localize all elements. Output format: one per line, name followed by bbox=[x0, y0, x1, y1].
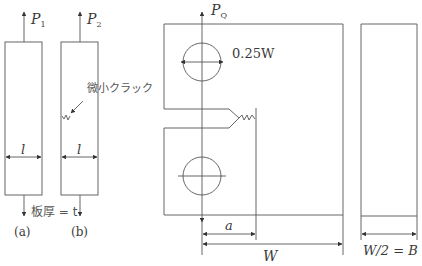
width-label-w: W bbox=[263, 249, 277, 263]
load-label-pq: PQ bbox=[211, 3, 227, 20]
diagram-canvas bbox=[0, 0, 422, 266]
side-view bbox=[361, 24, 417, 240]
side-thickness-label: W/2 = B bbox=[363, 244, 418, 257]
width-label-b: l bbox=[77, 143, 81, 156]
caption-b: (b) bbox=[71, 226, 88, 238]
load-label-p1: P1 bbox=[31, 12, 46, 29]
caption-a: (a) bbox=[14, 226, 31, 238]
plate-b bbox=[61, 12, 98, 216]
load-label-p2: P2 bbox=[87, 12, 102, 29]
micro-crack-icon bbox=[62, 115, 70, 120]
width-label-a: l bbox=[21, 143, 25, 156]
crack-length-label: a bbox=[225, 219, 233, 232]
thickness-label: 板厚 = t bbox=[31, 206, 77, 218]
hole-dim-label: 0.25W bbox=[232, 47, 274, 60]
crack-label: 微小クラック bbox=[87, 83, 153, 94]
plate-a bbox=[5, 12, 42, 216]
